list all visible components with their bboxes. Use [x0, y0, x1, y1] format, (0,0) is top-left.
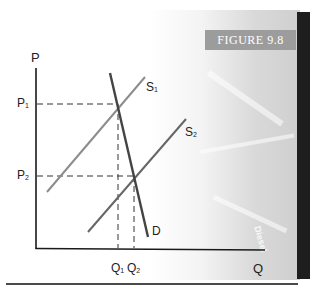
d-label: D: [152, 225, 161, 237]
bottom-rule: [6, 283, 298, 285]
x-axis: [36, 249, 266, 251]
q-axis-label: Q: [253, 262, 263, 275]
s1-label: S1: [146, 81, 158, 93]
s2-label: S2: [185, 126, 197, 138]
q2-label: Q2: [127, 262, 140, 274]
p-axis-label: P: [31, 51, 40, 64]
supply-demand-chart: [0, 0, 325, 301]
p1-label: P1: [17, 97, 29, 109]
s1-curve: [47, 77, 145, 192]
p2-label: P2: [17, 169, 29, 181]
q1-label: Q1: [111, 262, 124, 274]
d-curve: [110, 73, 148, 237]
